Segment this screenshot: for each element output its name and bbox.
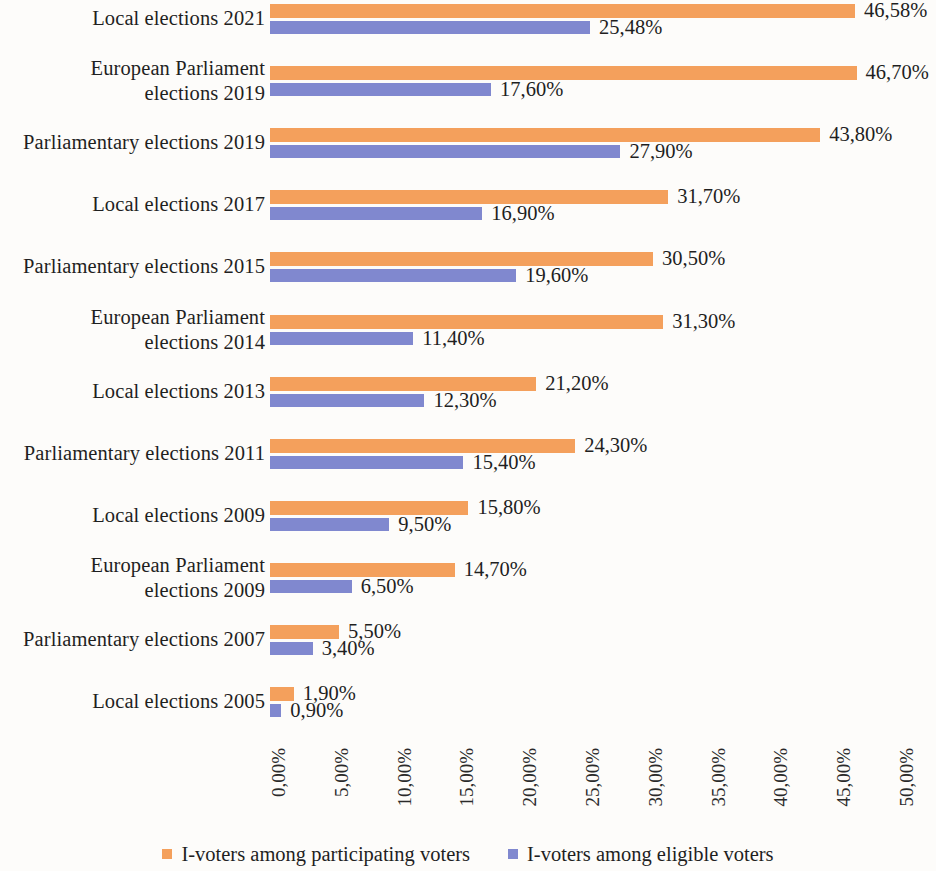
chart-row: Local elections 201321,20%12,30% [0,377,936,439]
category-label: Parliamentary elections 2007 [0,627,265,652]
bar-eligible [270,580,352,593]
bar-value-label: 31,30% [672,311,735,332]
bar-eligible [270,518,389,531]
category-label: Parliamentary elections 2019 [0,130,265,155]
bar-value-label: 3,40% [322,638,375,659]
bar-eligible [270,456,463,469]
bar-participating [270,252,653,266]
bar-value-label: 19,60% [525,266,588,287]
chart-row: European Parliamentelections 201431,30%1… [0,315,936,377]
bar-value-label: 11,40% [422,328,484,349]
bar-value-label: 30,50% [662,249,725,270]
chart-row: Local elections 201731,70%16,90% [0,190,936,252]
bar-participating [270,128,820,142]
category-label: European Parliamentelections 2009 [0,553,265,603]
x-axis: 0,00%5,00%10,00%15,00%20,00%25,00%30,00%… [0,748,936,828]
bar-value-label: 43,80% [829,125,892,146]
bar-eligible [270,21,590,34]
bar-eligible [270,394,424,407]
category-label: Local elections 2017 [0,192,265,217]
legend-label: I-voters among eligible voters [527,844,774,865]
x-axis-tick-label: 45,00% [834,748,853,807]
chart-row: Local elections 20051,90%0,90% [0,687,936,749]
x-axis-tick-label: 50,00% [897,748,916,807]
bar-value-label: 12,30% [433,390,496,411]
category-label: Local elections 2013 [0,379,265,404]
x-axis-tick-label: 10,00% [394,748,413,807]
bar-participating [270,4,855,18]
chart-row: Parliamentary elections 201943,80%27,90% [0,128,936,190]
x-axis-tick-label: 25,00% [583,748,602,807]
bar-eligible [270,642,313,655]
chart-legend: I-voters among participating votersI-vot… [0,840,936,868]
bar-value-label: 27,90% [629,142,692,163]
bar-value-label: 16,90% [491,204,554,225]
bar-value-label: 0,90% [290,700,343,721]
bar-eligible [270,145,620,158]
legend-swatch-icon [162,849,172,859]
category-label: European Parliamentelections 2019 [0,56,265,106]
bar-eligible [270,269,516,282]
x-axis-tick-label: 40,00% [771,748,790,807]
bar-value-label: 46,58% [864,0,927,21]
bar-value-label: 25,48% [599,17,662,38]
bar-value-label: 15,40% [472,452,535,473]
category-label: Local elections 2005 [0,689,265,714]
bar-chart: Local elections 202146,58%25,48%European… [0,0,936,871]
bar-eligible [270,83,491,96]
category-label: European Parliamentelections 2014 [0,305,265,355]
legend-item[interactable]: I-voters among eligible voters [508,844,774,865]
chart-row: Parliamentary elections 20075,50%3,40% [0,625,936,687]
bar-value-label: 21,20% [545,373,608,394]
bar-participating [270,66,857,80]
chart-row: European Parliamentelections 201946,70%1… [0,66,936,128]
bar-value-label: 17,60% [500,79,563,100]
bar-value-label: 31,70% [677,187,740,208]
chart-row: Parliamentary elections 201124,30%15,40% [0,439,936,501]
chart-row: European Parliamentelections 200914,70%6… [0,563,936,625]
bar-participating [270,190,668,204]
bar-value-label: 24,30% [584,435,647,456]
x-axis-tick-label: 35,00% [708,748,727,807]
bar-value-label: 46,70% [866,62,929,82]
x-axis-tick-label: 15,00% [457,748,476,807]
bar-value-label: 6,50% [361,576,414,597]
legend-item[interactable]: I-voters among participating voters [162,844,470,865]
legend-swatch-icon [508,849,518,859]
x-axis-tick-label: 20,00% [520,748,539,807]
category-label: Parliamentary elections 2015 [0,254,265,279]
category-label: Local elections 2009 [0,503,265,528]
legend-label: I-voters among participating voters [181,844,470,865]
x-axis-tick-label: 0,00% [269,748,288,797]
bar-eligible [270,332,413,345]
bar-eligible [270,704,281,717]
bar-value-label: 9,50% [398,514,451,535]
x-axis-tick-label: 30,00% [645,748,664,807]
bar-value-label: 14,70% [464,559,527,580]
bar-eligible [270,207,482,220]
bar-value-label: 15,80% [477,497,540,518]
category-label: Local elections 2021 [0,6,265,31]
x-axis-tick-label: 5,00% [331,748,350,797]
category-label: Parliamentary elections 2011 [0,441,265,466]
